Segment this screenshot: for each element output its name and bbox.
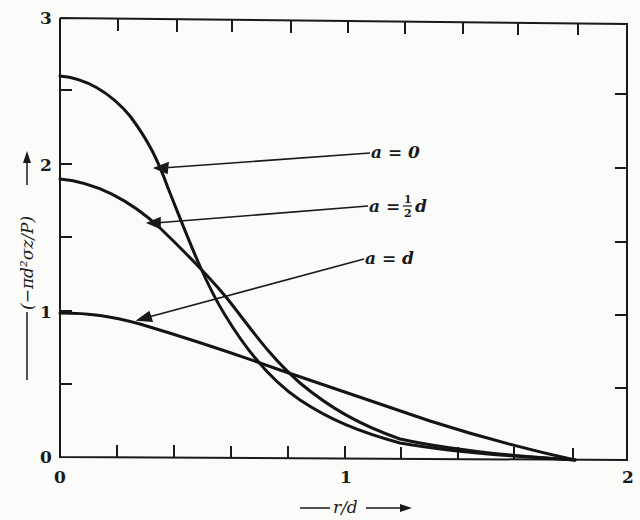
curve-a-half-d bbox=[60, 179, 575, 460]
annotation-a-0: a = 0 bbox=[371, 142, 420, 162]
y-axis-right-ticks bbox=[615, 94, 627, 388]
x-tick-2: 2 bbox=[622, 467, 634, 487]
svg-text:2: 2 bbox=[404, 207, 412, 220]
y-tick-2: 2 bbox=[40, 155, 52, 175]
y-tick-0: 0 bbox=[40, 447, 52, 467]
annotation-arrows bbox=[138, 153, 370, 321]
y-axis-ticks bbox=[60, 90, 72, 384]
annotation-a-d: a = d bbox=[365, 248, 414, 268]
series-curves bbox=[60, 76, 575, 460]
annotation-a-half-d: a = 1 2 d bbox=[369, 193, 427, 220]
arrow-right-icon bbox=[400, 504, 412, 512]
svg-text:a =: a = bbox=[369, 196, 400, 216]
curve-a-0 bbox=[60, 76, 575, 460]
svg-text:1: 1 bbox=[404, 193, 412, 206]
arrow-up-icon bbox=[23, 151, 31, 163]
y-tick-1: 1 bbox=[40, 302, 52, 322]
x-axis-label: r/d bbox=[300, 497, 412, 517]
x-axis-top-ticks bbox=[118, 19, 578, 35]
x-tick-0: 0 bbox=[54, 467, 66, 487]
chart: 3 2 1 0 0 1 2 a = 0 a = 1 2 d a = d r/d … bbox=[0, 0, 640, 520]
x-axis-label-text: r/d bbox=[333, 497, 358, 517]
y-tick-3: 3 bbox=[40, 8, 52, 28]
x-tick-1: 1 bbox=[340, 467, 352, 487]
curve-a-d bbox=[60, 313, 575, 460]
y-axis-label-text: (−πd²σz/P) bbox=[17, 216, 37, 310]
y-axis-label: (−πd²σz/P) bbox=[17, 151, 37, 380]
svg-text:d: d bbox=[415, 196, 427, 216]
plot-frame bbox=[60, 18, 627, 460]
